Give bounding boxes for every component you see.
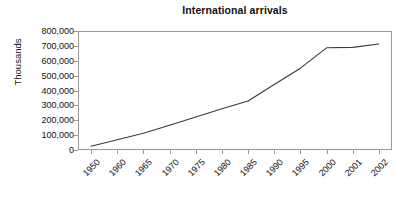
y-axis-tick-mark bbox=[74, 91, 78, 92]
x-axis-tick-mark bbox=[143, 150, 144, 154]
x-axis-tick-mark bbox=[91, 150, 92, 154]
x-axis-tick-mark bbox=[248, 150, 249, 154]
y-axis-tick-mark bbox=[74, 46, 78, 47]
y-axis-tick-label: 0 bbox=[28, 145, 74, 155]
y-axis-tick-mark bbox=[74, 120, 78, 121]
x-axis-tick-mark bbox=[222, 150, 223, 154]
x-axis-tick-mark bbox=[117, 150, 118, 154]
y-axis-tick-label: 100,000 bbox=[28, 130, 74, 140]
y-axis-tick-mark bbox=[74, 150, 78, 151]
y-axis-tick-mark bbox=[74, 61, 78, 62]
x-axis-tick-mark bbox=[300, 150, 301, 154]
y-axis-tick-label: 500,000 bbox=[28, 71, 74, 81]
y-axis-tick-labels: 800,000700,000600,000500,000400,000300,0… bbox=[26, 0, 74, 202]
y-axis-tick-label: 300,000 bbox=[28, 100, 74, 110]
x-axis-tick-mark bbox=[379, 150, 380, 154]
y-axis-tick-mark bbox=[74, 76, 78, 77]
y-axis-tick-mark bbox=[74, 31, 78, 32]
y-axis-title: Thousands bbox=[11, 27, 25, 97]
data-line-series bbox=[78, 31, 392, 150]
y-axis-tick-label: 200,000 bbox=[28, 115, 74, 125]
y-axis-tick-mark bbox=[74, 135, 78, 136]
x-axis-tick-mark bbox=[274, 150, 275, 154]
x-axis-tick-mark bbox=[353, 150, 354, 154]
y-axis-tick-label: 700,000 bbox=[28, 41, 74, 51]
y-axis-tick-label: 800,000 bbox=[28, 26, 74, 36]
y-axis-tick-label: 600,000 bbox=[28, 56, 74, 66]
y-axis-tick-label: 400,000 bbox=[28, 86, 74, 96]
y-axis-tick-mark bbox=[74, 105, 78, 106]
chart-title: International arrivals bbox=[78, 4, 392, 16]
x-axis-tick-mark bbox=[196, 150, 197, 154]
series-polyline-international-arrivals bbox=[91, 44, 379, 146]
chart-container: International arrivals Thousands 800,000… bbox=[0, 0, 406, 202]
x-axis-tick-mark bbox=[170, 150, 171, 154]
x-axis-tick-mark bbox=[327, 150, 328, 154]
